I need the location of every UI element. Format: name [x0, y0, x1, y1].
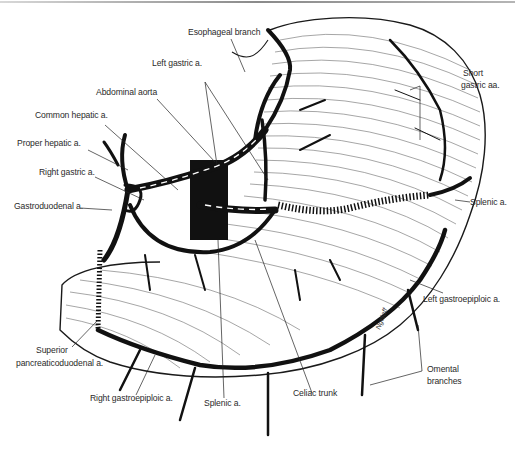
label-splenic-bottom: Splenic a. [204, 398, 241, 409]
label-common-hepatic: Common hepatic a. [35, 110, 108, 121]
label-right-gastric: Right gastric a. [39, 167, 95, 178]
label-left-gastric: Left gastric a. [152, 58, 202, 69]
label-superior-pd-2: pancreaticoduodenal a. [16, 358, 103, 369]
label-proper-hepatic: Proper hepatic a. [17, 138, 81, 149]
label-omental-1: Omental [427, 364, 459, 375]
label-right-gastroepiploic: Right gastroepiploic a. [90, 393, 173, 404]
label-superior-pd-1: Superior [36, 345, 68, 356]
label-short-gastric-1: Short [463, 68, 483, 79]
label-short-gastric-2: gastric aa. [461, 80, 500, 91]
label-abdominal-aorta: Abdominal aorta [96, 87, 157, 98]
label-esophageal-branch: Esophageal branch [188, 27, 260, 38]
artist-signature: Ngelaff [374, 306, 389, 331]
label-celiac-trunk: Celiac trunk [293, 388, 337, 399]
label-left-gastroepiploic: Left gastroepiploic a. [423, 294, 500, 305]
label-omental-2: branches [427, 376, 462, 387]
label-splenic-right: Splenic a. [470, 197, 507, 208]
label-gastroduodenal: Gastroduodenal a. [14, 201, 83, 212]
